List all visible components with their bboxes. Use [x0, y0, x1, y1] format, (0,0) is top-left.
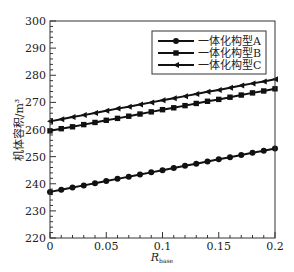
legend: 一体化构型A一体化构型B一体化构型C: [152, 31, 266, 74]
chart-container: 机体容积/m³ 220230240250260270280290300 00.0…: [0, 0, 294, 272]
x-tick-label: 0.05: [94, 240, 119, 253]
y-tick-label: 280: [25, 69, 46, 82]
data-series: [47, 76, 278, 195]
y-tick-label: 240: [25, 178, 46, 191]
x-tick-label: 0: [47, 240, 54, 253]
x-tick-label: 0.15: [207, 240, 232, 253]
legend-label: 一体化构型A: [198, 34, 262, 48]
series-square: [47, 86, 277, 133]
y-tick-label: 250: [25, 151, 46, 164]
series-triangle-left: [47, 76, 278, 124]
y-tick-label: 230: [25, 205, 46, 218]
y-axis-label: 机体容积/m³: [12, 99, 26, 162]
series-circle: [47, 145, 278, 194]
y-tick-label: 290: [25, 42, 46, 55]
x-axis-ticks: 00.050.10.150.2: [47, 232, 284, 253]
y-axis-title: 机体容积/m³: [12, 99, 26, 162]
legend-label: 一体化构型B: [198, 46, 261, 60]
y-tick-label: 270: [25, 96, 46, 109]
line-chart: 机体容积/m³ 220230240250260270280290300 00.0…: [0, 0, 294, 272]
y-tick-label: 300: [25, 15, 46, 28]
x-tick-label: 0.2: [266, 240, 284, 253]
legend-label: 一体化构型C: [198, 58, 261, 72]
y-tick-label: 220: [25, 232, 46, 245]
y-tick-label: 260: [25, 124, 46, 137]
